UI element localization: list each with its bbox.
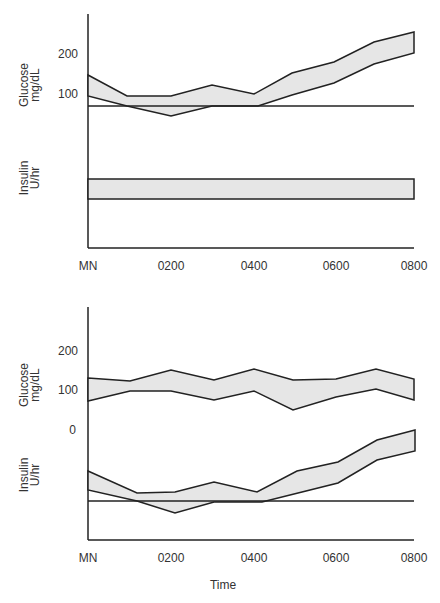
top-glucose-band [88, 32, 414, 116]
svg-text:U/hr: U/hr [28, 464, 42, 487]
bottom-insulin-ylabel: Insulin U/hr [17, 458, 42, 493]
bottom-ytick-200: 200 [58, 344, 78, 358]
svg-text:MN: MN [79, 551, 98, 565]
svg-text:0800: 0800 [401, 259, 428, 273]
bottom-x-ticks: MN 0200 0400 0600 0800 [79, 551, 428, 565]
bottom-glucose-ylabel: Glucose mg/dL [17, 363, 42, 407]
svg-text:0200: 0200 [158, 259, 185, 273]
top-ytick-100: 100 [58, 87, 78, 101]
svg-text:0400: 0400 [241, 551, 268, 565]
top-x-ticks: MN 0200 0400 0600 0800 [79, 259, 428, 273]
chart-figure: 200 100 Glucose mg/dL Insulin U/hr MN 02… [0, 0, 440, 603]
top-insulin-band [88, 179, 414, 199]
svg-text:U/hr: U/hr [28, 167, 42, 190]
svg-text:mg/dL: mg/dL [28, 68, 42, 102]
top-glucose-ylabel: Glucose mg/dL [17, 63, 42, 107]
svg-text:0800: 0800 [401, 551, 428, 565]
top-ytick-200: 200 [58, 47, 78, 61]
bottom-ytick-0: 0 [69, 423, 76, 437]
bottom-chart: 200 100 0 Glucose mg/dL Insulin U/hr [17, 307, 415, 540]
x-axis-title: Time [210, 578, 237, 592]
bottom-glucose-band [88, 369, 414, 410]
svg-text:mg/dL: mg/dL [28, 368, 42, 402]
svg-text:MN: MN [79, 259, 98, 273]
top-insulin-ylabel: Insulin U/hr [17, 161, 42, 196]
top-chart: 200 100 Glucose mg/dL Insulin U/hr [17, 14, 414, 248]
svg-text:0600: 0600 [323, 259, 350, 273]
svg-text:0600: 0600 [323, 551, 350, 565]
svg-text:0400: 0400 [241, 259, 268, 273]
bottom-ytick-100: 100 [58, 383, 78, 397]
svg-text:0200: 0200 [158, 551, 185, 565]
